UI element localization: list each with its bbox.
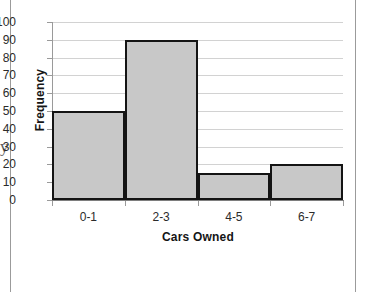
y-tick-label-80: 80 — [0, 52, 16, 64]
x-tick-label-0-1: 0-1 — [52, 210, 125, 224]
x-tick-label-2-3: 2-3 — [125, 210, 198, 224]
x-tick-3 — [270, 201, 271, 206]
x-tick-2 — [198, 201, 199, 206]
x-tick-label-6-7: 6-7 — [270, 210, 343, 224]
bar-series-frequency — [52, 22, 343, 200]
bar-4-5 — [198, 173, 271, 200]
histogram-chart: 1009080706050403020100 0-12-34-56-7 Cars… — [11, 0, 355, 292]
bar-2-3 — [125, 40, 198, 200]
x-axis-title: Cars Owned — [52, 230, 344, 244]
y-tick-label-0: 0 — [0, 194, 16, 206]
bar-0-1 — [52, 111, 125, 200]
y-tick-label-50: 50 — [0, 105, 16, 117]
y-tick-label-70: 70 — [0, 69, 16, 81]
y-tick-label-10: 10 — [0, 176, 16, 188]
x-tick-1 — [125, 201, 126, 206]
y-tick-label-100: 100 — [0, 16, 16, 28]
y-tick-label-40: 40 — [0, 123, 16, 135]
x-tick-4 — [343, 201, 344, 206]
y-tick-label-30: 30 — [0, 141, 16, 153]
y-tick-label-20: 20 — [0, 158, 16, 170]
x-tick-0 — [52, 201, 53, 206]
bar-6-7 — [270, 164, 343, 200]
y-axis-title: Frequency — [33, 55, 47, 145]
y-tick-label-60: 60 — [0, 87, 16, 99]
y-tick-label-90: 90 — [0, 34, 16, 46]
page-border-right — [355, 0, 356, 292]
x-tick-label-4-5: 4-5 — [198, 210, 271, 224]
